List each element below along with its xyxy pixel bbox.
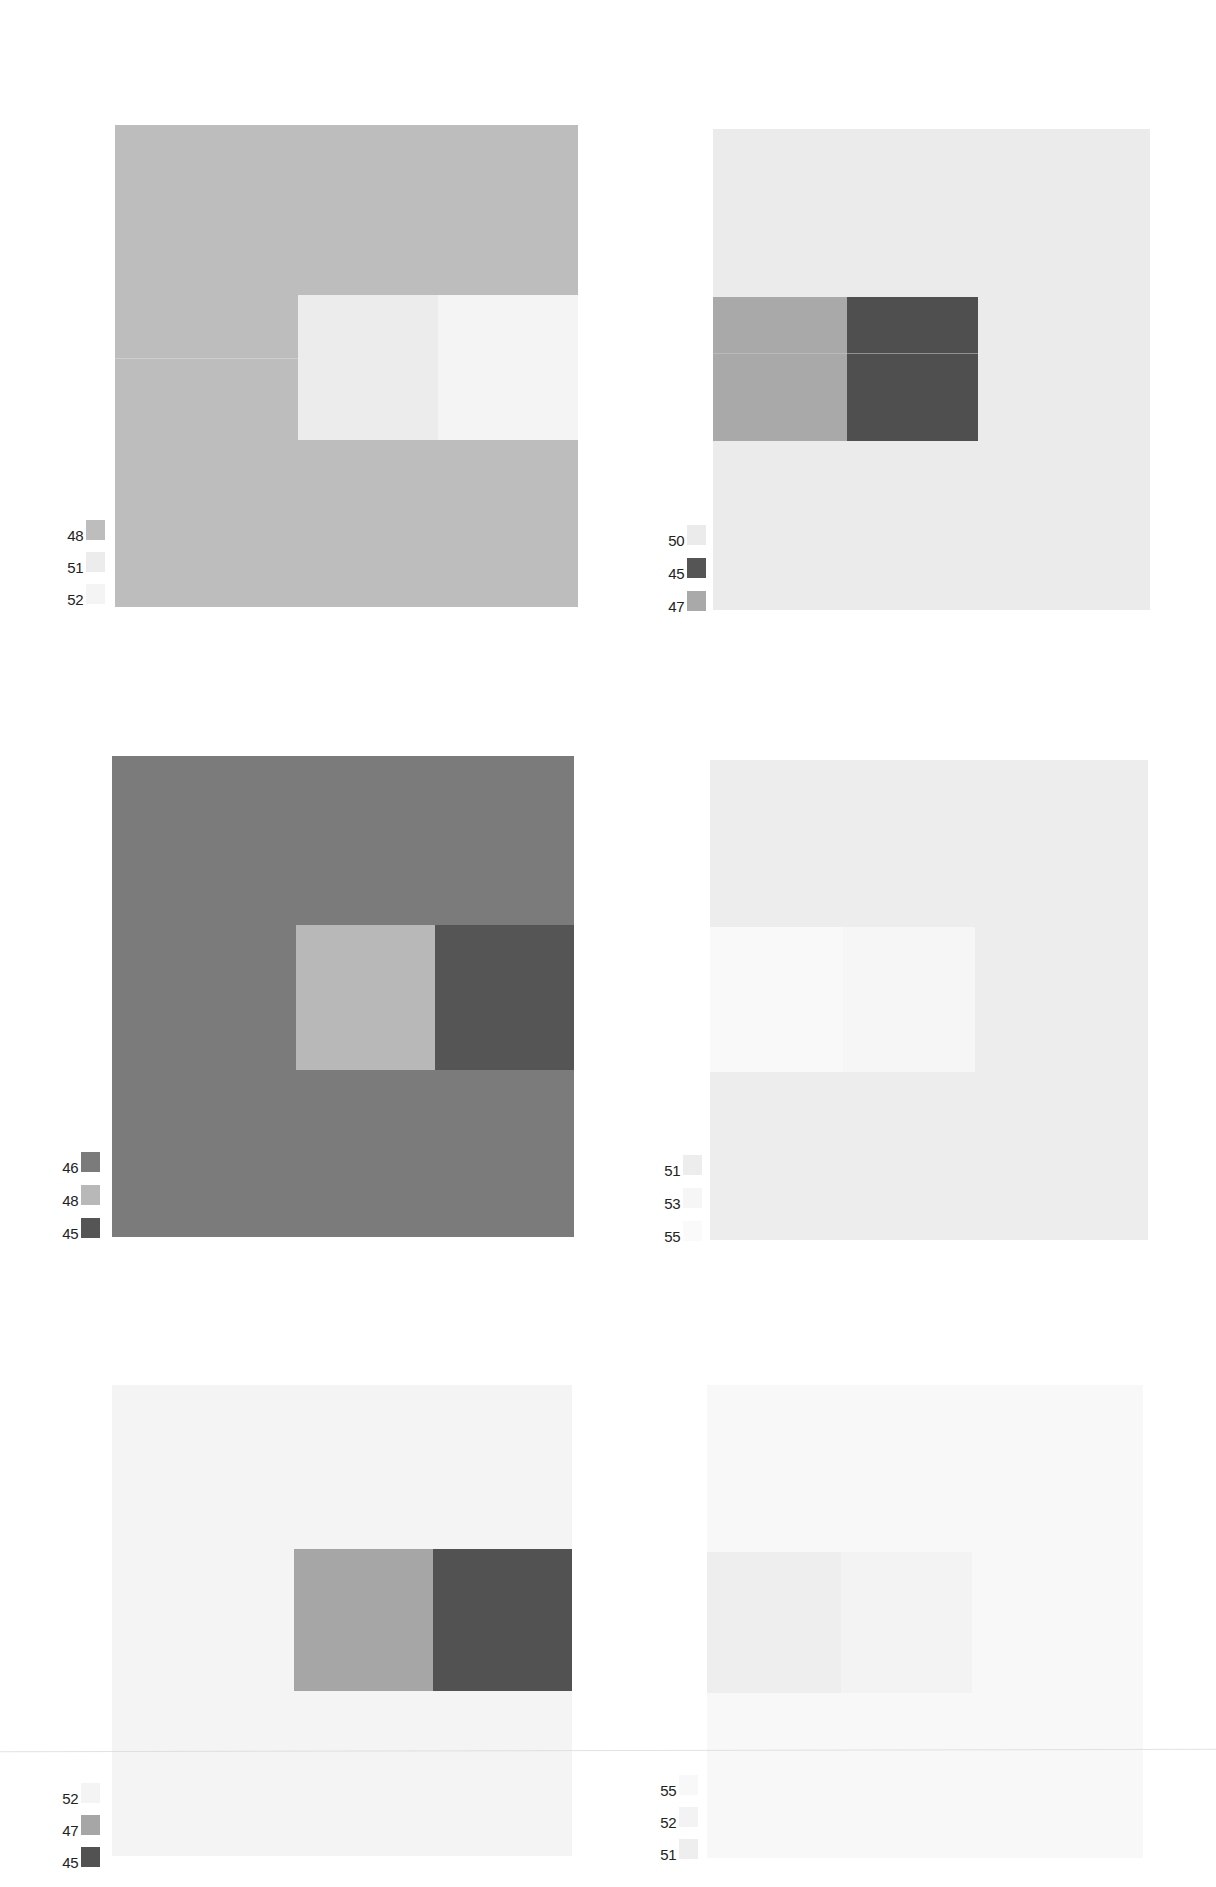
legend-item: 50 bbox=[646, 525, 706, 545]
plate-3-inner bbox=[296, 925, 574, 1070]
plate-4 bbox=[710, 760, 1148, 1240]
plate-5-inner-left bbox=[294, 1549, 433, 1691]
legend-item: 52 bbox=[45, 584, 105, 604]
plate-2-inner-left bbox=[713, 297, 847, 441]
legend-item: 46 bbox=[40, 1152, 100, 1172]
legend-swatch bbox=[683, 1155, 702, 1175]
legend-item: 51 bbox=[45, 552, 105, 572]
legend-label: 45 bbox=[62, 1226, 78, 1241]
plate-3-inner-right bbox=[435, 925, 574, 1070]
legend-swatch bbox=[81, 1218, 100, 1238]
plate-5 bbox=[112, 1385, 572, 1856]
plate-2-inner-right bbox=[847, 297, 978, 441]
legend-item: 51 bbox=[642, 1155, 702, 1175]
legend-label: 47 bbox=[668, 599, 684, 614]
plate-6-inner-left bbox=[707, 1552, 841, 1693]
legend-swatch bbox=[81, 1783, 100, 1803]
legend-item: 52 bbox=[40, 1783, 100, 1803]
legend-item: 55 bbox=[638, 1775, 698, 1795]
legend-swatch bbox=[683, 1221, 702, 1241]
legend-swatch bbox=[81, 1847, 100, 1867]
legend-item: 47 bbox=[40, 1815, 100, 1835]
legend-swatch bbox=[679, 1775, 698, 1795]
legend-label: 46 bbox=[62, 1160, 78, 1175]
legend-label: 48 bbox=[67, 528, 83, 543]
legend-swatch bbox=[687, 558, 706, 578]
plate-5-inner-right bbox=[433, 1549, 572, 1691]
plate-4-inner-right bbox=[843, 927, 975, 1072]
legend-label: 51 bbox=[67, 560, 83, 575]
legend-item: 45 bbox=[40, 1847, 100, 1867]
legend-swatch bbox=[86, 552, 105, 572]
legend-label: 50 bbox=[668, 533, 684, 548]
legend-label: 52 bbox=[660, 1815, 676, 1830]
legend-item: 47 bbox=[646, 591, 706, 611]
plate-4-inner bbox=[710, 927, 975, 1072]
legend-item: 51 bbox=[638, 1839, 698, 1859]
legend-label: 53 bbox=[664, 1196, 680, 1211]
legend-swatch bbox=[81, 1152, 100, 1172]
legend-label: 51 bbox=[660, 1847, 676, 1862]
plate-6 bbox=[707, 1385, 1143, 1858]
plate-3 bbox=[112, 756, 574, 1237]
legend-swatch bbox=[687, 591, 706, 611]
plate-3-inner-left bbox=[296, 925, 435, 1070]
legend-swatch bbox=[86, 520, 105, 540]
plate-1-inner-left bbox=[298, 295, 438, 440]
plate-1-inner bbox=[298, 295, 578, 440]
legend-item: 52 bbox=[638, 1807, 698, 1827]
legend-label: 47 bbox=[62, 1823, 78, 1838]
legend-item: 45 bbox=[40, 1218, 100, 1238]
legend-swatch bbox=[81, 1815, 100, 1835]
legend-swatch bbox=[687, 525, 706, 545]
legend-item: 48 bbox=[40, 1185, 100, 1205]
plate-2-inner bbox=[713, 297, 978, 441]
legend-label: 52 bbox=[67, 592, 83, 607]
plate-4-inner-left bbox=[710, 927, 843, 1072]
legend-swatch bbox=[81, 1185, 100, 1205]
plate-1-inner-right bbox=[438, 295, 578, 440]
plate-1-seam bbox=[115, 358, 298, 359]
legend-label: 55 bbox=[664, 1229, 680, 1244]
legend-label: 45 bbox=[62, 1855, 78, 1870]
plate-2-seam bbox=[713, 353, 978, 354]
legend-item: 45 bbox=[646, 558, 706, 578]
legend-swatch bbox=[679, 1807, 698, 1827]
legend-label: 51 bbox=[664, 1163, 680, 1178]
legend-item: 55 bbox=[642, 1221, 702, 1241]
legend-item: 53 bbox=[642, 1188, 702, 1208]
plate-6-inner-right bbox=[841, 1552, 972, 1693]
legend-swatch bbox=[679, 1839, 698, 1859]
plate-5-inner bbox=[294, 1549, 572, 1691]
plate-2 bbox=[713, 129, 1150, 610]
plate-1 bbox=[115, 125, 578, 607]
legend-label: 45 bbox=[668, 566, 684, 581]
legend-swatch bbox=[683, 1188, 702, 1208]
legend-item: 48 bbox=[45, 520, 105, 540]
legend-swatch bbox=[86, 584, 105, 604]
plate-6-inner bbox=[707, 1552, 972, 1693]
legend-label: 55 bbox=[660, 1783, 676, 1798]
legend-label: 52 bbox=[62, 1791, 78, 1806]
legend-label: 48 bbox=[62, 1193, 78, 1208]
